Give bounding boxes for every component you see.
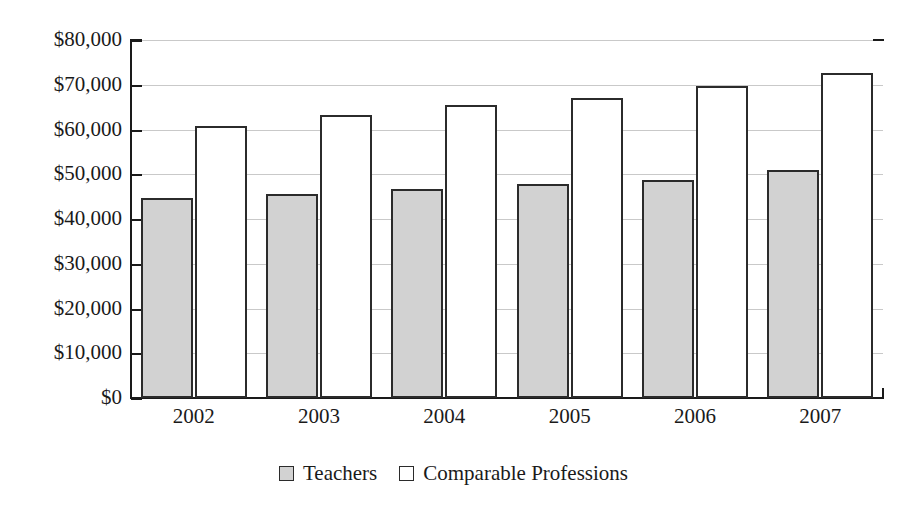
- bar-2003-teachers: [266, 194, 318, 398]
- legend-item-teachers[interactable]: Teachers: [279, 461, 377, 485]
- x-axis-tick-label-2002: 2002: [131, 404, 256, 428]
- chart-legend: TeachersComparable Professions: [0, 461, 907, 485]
- bar-2007-comparable-professions: [821, 73, 873, 398]
- y-axis-tick-label: $50,000: [0, 163, 122, 184]
- x-axis-tick-label-2004: 2004: [382, 404, 507, 428]
- x-axis-tick-label-2006: 2006: [632, 404, 757, 428]
- bar-2003-comparable-professions: [320, 115, 372, 398]
- bar-2004-teachers: [391, 189, 443, 398]
- bar-group: [256, 40, 381, 398]
- bar-group: [507, 40, 632, 398]
- legend-item-comparable-professions[interactable]: Comparable Professions: [399, 461, 628, 485]
- y-axis-tick-label: $40,000: [0, 208, 122, 229]
- y-axis-tick-label: $30,000: [0, 253, 122, 274]
- y-axis-tick-label: $60,000: [0, 119, 122, 140]
- y-axis-tick-label: $20,000: [0, 298, 122, 319]
- plot-area: [131, 40, 883, 398]
- y-axis-tick-label: $10,000: [0, 342, 122, 363]
- bar-2006-comparable-professions: [696, 86, 748, 398]
- y-axis-tick-label: $70,000: [0, 74, 122, 95]
- bar-group: [382, 40, 507, 398]
- bar-chart: $0$10,000$20,000$30,000$40,000$50,000$60…: [0, 0, 907, 513]
- y-axis-tick-label: $80,000: [0, 29, 122, 50]
- x-axis-tick-label-2003: 2003: [256, 404, 381, 428]
- x-axis-tick-label-2005: 2005: [507, 404, 632, 428]
- legend-label: Teachers: [303, 461, 377, 485]
- bar-2007-teachers: [767, 170, 819, 398]
- bar-2002-comparable-professions: [195, 126, 247, 398]
- bar-2005-teachers: [517, 184, 569, 398]
- x-axis-tick-label-2007: 2007: [758, 404, 883, 428]
- bar-group: [632, 40, 757, 398]
- bar-2005-comparable-professions: [571, 98, 623, 398]
- legend-label: Comparable Professions: [423, 461, 628, 485]
- bar-2002-teachers: [141, 198, 193, 398]
- legend-swatch-icon: [399, 466, 414, 481]
- legend-swatch-icon: [279, 466, 294, 481]
- bar-2004-comparable-professions: [445, 105, 497, 398]
- bar-group: [758, 40, 883, 398]
- y-axis-tick-label: $0: [0, 387, 122, 408]
- bar-2006-teachers: [642, 180, 694, 398]
- bar-group: [131, 40, 256, 398]
